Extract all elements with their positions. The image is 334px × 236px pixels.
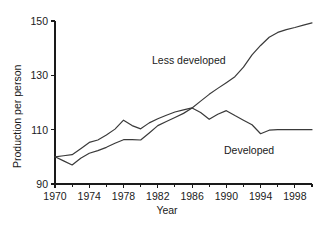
axis-lines <box>55 21 312 184</box>
x-tick-label: 1998 <box>275 191 315 202</box>
y-axis-ticks <box>51 21 55 184</box>
y-tick-label: 90 <box>12 179 48 190</box>
x-axis-ticks <box>55 184 312 188</box>
y-tick-label: 150 <box>12 16 48 27</box>
y-tick-label: 110 <box>12 125 48 136</box>
x-axis-title: Year <box>0 205 334 216</box>
chart-figure: Production per person Year 9011013015019… <box>0 0 334 236</box>
series-label-less-developed: Less developed <box>152 55 226 66</box>
series-label-developed: Developed <box>224 145 274 156</box>
y-tick-label: 130 <box>12 70 48 81</box>
